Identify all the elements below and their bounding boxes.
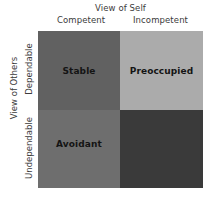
attachment-style-matrix-figure: View of Self Competent Incompetent View … [0,0,211,200]
quadrant-preoccupied: Preoccupied [120,31,203,110]
quadrant-label-avoidant: Avoidant [56,139,102,149]
axis-title-view-of-others: View of Others [9,48,19,128]
quadrant-label-preoccupied: Preoccupied [130,66,194,76]
row-header-dependable: Dependable [24,34,34,104]
quadrant-stable: Stable [38,31,120,110]
column-header-competent: Competent [57,15,105,25]
quadrant-label-stable: Stable [62,66,95,76]
axis-title-view-of-self: View of Self [38,3,203,13]
matrix-plot-area: Stable Preoccupied Avoidant [38,31,203,188]
quadrant-unlabeled [120,110,203,188]
row-header-undependable: Undependable [24,111,34,185]
quadrant-avoidant: Avoidant [38,110,120,188]
column-header-incompetent: Incompetent [133,15,188,25]
